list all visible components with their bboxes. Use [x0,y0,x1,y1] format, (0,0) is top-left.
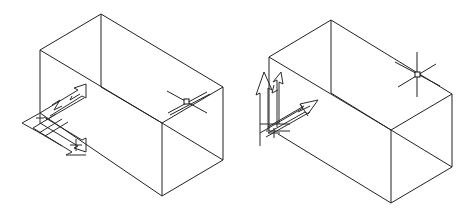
box-edge [162,160,223,196]
pickbox-icon [415,72,420,77]
box-edge [391,94,452,130]
box-edge [391,130,452,167]
drawing-canvas [0,0,469,210]
box-edge [278,134,391,203]
ucs-icon-vertical [256,72,318,146]
box-edge [269,20,331,57]
pickbox-icon [184,99,189,104]
left-figure [22,14,223,196]
box-edge [40,14,101,50]
crosshair-cursor-icon [395,52,440,97]
ucs-icon-horizontal [22,84,86,155]
box-edge [101,87,162,123]
box-edge [101,14,223,87]
box-edge [331,93,391,130]
box-edge [162,123,223,160]
crosshair-cursor-icon [167,91,210,115]
box-edge [391,167,452,203]
right-figure [256,20,452,203]
